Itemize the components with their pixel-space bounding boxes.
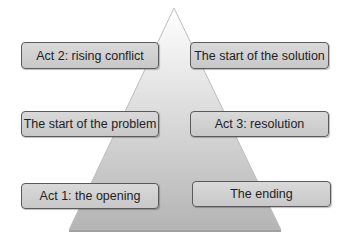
box-label: The ending: [230, 187, 293, 201]
box-act3-resolution: Act 3: resolution: [190, 111, 329, 137]
box-the-ending: The ending: [192, 181, 331, 207]
box-label: The start of the problem: [24, 117, 157, 131]
box-act1-opening: Act 1: the opening: [21, 183, 159, 209]
box-label: Act 3: resolution: [215, 117, 305, 131]
box-start-of-problem: The start of the problem: [21, 111, 159, 137]
box-label: The start of the solution: [194, 49, 325, 63]
box-label: Act 1: the opening: [40, 189, 141, 203]
box-start-of-solution: The start of the solution: [190, 42, 329, 69]
box-label: Act 2: rising conflict: [36, 49, 144, 63]
box-act2-rising-conflict: Act 2: rising conflict: [21, 42, 159, 69]
